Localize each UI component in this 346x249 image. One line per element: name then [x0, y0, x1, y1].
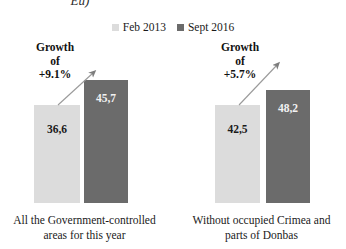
bar-value-label: 36,6: [34, 123, 80, 135]
bar-value-label: 48,2: [266, 102, 310, 114]
bar-group-without-crimea-donbas: Growth of +5.7% 42,5 48,2 Without occupi…: [173, 0, 346, 249]
chart-plot-area: Growth of +9.1% 36,6 45,7 All the Govern…: [0, 0, 346, 249]
caption-line-1: All the Government-controlled: [0, 213, 171, 228]
growth-annotation: Growth of +5.7%: [197, 41, 283, 82]
bar-feb-2013: 42,5: [215, 105, 260, 203]
bar-feb-2013: 36,6: [34, 105, 80, 203]
bar-sept-2016: 45,7: [84, 80, 128, 203]
growth-title: Growth: [197, 41, 283, 55]
growth-annotation: Growth of +9.1%: [12, 41, 98, 82]
category-caption: Without occupied Crimea and parts of Don…: [175, 213, 346, 243]
growth-of-word: of: [197, 55, 283, 69]
growth-value: +5.7%: [197, 68, 283, 82]
bar-group-government-controlled-areas: Growth of +9.1% 36,6 45,7 All the Govern…: [0, 0, 173, 249]
bar-sept-2016: 48,2: [266, 90, 310, 203]
bar-value-label: 45,7: [84, 92, 128, 104]
growth-of-word: of: [12, 55, 98, 69]
caption-line-2: areas for this year: [0, 228, 171, 243]
caption-line-2: parts of Donbas: [175, 228, 346, 243]
bar-value-label: 42,5: [215, 123, 260, 135]
category-caption: All the Government-controlled areas for …: [0, 213, 171, 243]
growth-title: Growth: [12, 41, 98, 55]
caption-line-1: Without occupied Crimea and: [175, 213, 346, 228]
